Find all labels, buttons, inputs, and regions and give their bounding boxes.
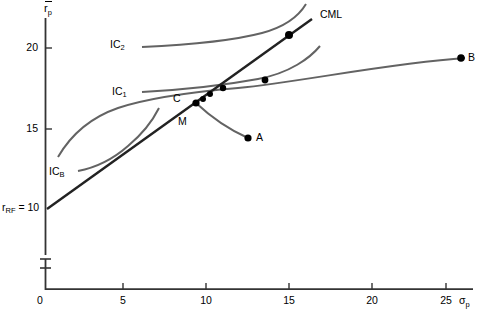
y-tick-label-15: 15: [12, 122, 38, 134]
indifference-curve-1: [142, 46, 320, 92]
label-point-m: M: [178, 116, 187, 127]
risk-free-rate-label: rRF = 10: [2, 202, 39, 214]
y-tick-label-20: 20: [12, 41, 38, 53]
point-c: [200, 96, 206, 102]
chart-canvas: rp 20 15 rRF = 10 0 5 10 15 20 25 σp IC2…: [0, 0, 479, 313]
indifference-curve-b: [78, 108, 159, 171]
capital-market-line: [47, 19, 312, 209]
y-axis-title-overbar: [45, 1, 52, 2]
label-ic1: IC1: [112, 86, 127, 98]
point-a: [244, 134, 251, 141]
y-axis-title: rp: [44, 2, 52, 17]
point-m: [192, 99, 199, 106]
label-point-c: C: [173, 93, 181, 104]
point-b: [457, 54, 465, 62]
label-ic2: IC2: [110, 39, 125, 51]
line-m-to-a: [196, 103, 248, 138]
x-tick-label-15: 15: [280, 294, 298, 306]
x-tick-label-0: 0: [32, 294, 48, 306]
label-ic2-main: IC: [110, 38, 121, 50]
label-ic2-sub: 2: [121, 43, 125, 52]
x-tick-label-25: 25: [437, 294, 455, 306]
x-tick-label-10: 10: [197, 294, 215, 306]
cml-diagram-svg: [0, 0, 479, 313]
risk-free-rate-suffix: = 10: [16, 201, 40, 213]
point-unlabeled-2: [220, 85, 226, 91]
point-tangency-ic2: [285, 31, 293, 39]
label-point-a: A: [256, 132, 263, 143]
point-unlabeled-3: [262, 77, 269, 84]
label-icb: ICB: [49, 166, 65, 178]
risk-free-rate-sub: RF: [6, 206, 16, 215]
x-tick-label-20: 20: [363, 294, 381, 306]
x-axis-title-sub: p: [465, 300, 469, 309]
label-icb-sub: B: [60, 170, 65, 179]
y-axis-title-sub: p: [48, 8, 52, 17]
x-tick-label-5: 5: [115, 294, 131, 306]
label-cml: CML: [320, 9, 342, 20]
x-axis-title: σp: [459, 294, 470, 309]
label-ic1-main: IC: [112, 85, 123, 97]
label-ic1-sub: 1: [123, 90, 127, 99]
data-points-group: [192, 31, 464, 142]
label-point-b: B: [468, 52, 475, 63]
label-icb-main: IC: [49, 165, 60, 177]
point-unlabeled-1: [207, 91, 213, 97]
